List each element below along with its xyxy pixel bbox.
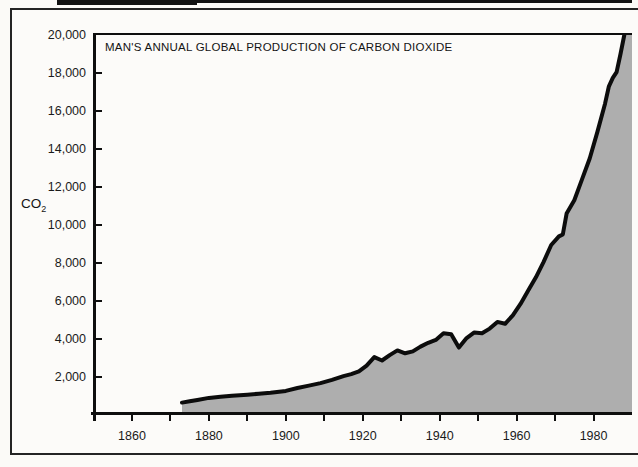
plot-frame-top bbox=[93, 33, 632, 35]
y-tick-label: 18,000 bbox=[0, 65, 86, 81]
plot-area bbox=[93, 33, 632, 414]
x-tick-mark bbox=[439, 415, 441, 421]
y-axis-unit-subscript: 2 bbox=[41, 204, 46, 214]
y-tick-label: 12,000 bbox=[0, 179, 86, 195]
y-tick-mark bbox=[96, 186, 102, 188]
y-tick-mark bbox=[96, 224, 102, 226]
x-tick-label: 1880 bbox=[177, 428, 241, 444]
y-tick-mark bbox=[96, 72, 102, 74]
y-tick-label: 4,000 bbox=[0, 331, 86, 347]
y-tick-label: 8,000 bbox=[0, 255, 86, 271]
y-axis-unit-text: CO bbox=[21, 196, 41, 211]
x-tick-label: 1980 bbox=[562, 428, 626, 444]
y-tick-mark bbox=[96, 376, 102, 378]
y-tick-label: 10,000 bbox=[0, 217, 86, 233]
x-tick-label: 1920 bbox=[331, 428, 395, 444]
x-tick-mark bbox=[323, 415, 325, 421]
x-tick-mark bbox=[131, 415, 133, 421]
x-tick-mark bbox=[477, 415, 479, 421]
y-tick-label: 14,000 bbox=[0, 141, 86, 157]
x-tick-label: 1860 bbox=[100, 428, 164, 444]
page-top-rule-thick-segment bbox=[57, 0, 197, 5]
y-tick-label: 20,000 bbox=[0, 27, 86, 43]
chart-title: MAN'S ANNUAL GLOBAL PRODUCTION OF CARBON… bbox=[105, 41, 453, 53]
y-tick-mark bbox=[96, 148, 102, 150]
x-tick-mark bbox=[362, 415, 364, 421]
y-tick-mark bbox=[96, 300, 102, 302]
y-tick-mark bbox=[96, 338, 102, 340]
x-tick-mark bbox=[400, 415, 402, 421]
x-tick-mark bbox=[593, 415, 595, 421]
x-tick-label: 1940 bbox=[408, 428, 472, 444]
y-tick-label: 16,000 bbox=[0, 103, 86, 119]
x-tick-mark bbox=[169, 415, 171, 421]
x-tick-mark bbox=[285, 415, 287, 421]
y-tick-label: 2,000 bbox=[0, 369, 86, 385]
x-tick-label: 1960 bbox=[485, 428, 549, 444]
x-tick-mark bbox=[554, 415, 556, 421]
y-tick-mark bbox=[96, 262, 102, 264]
y-tick-label: 6,000 bbox=[0, 293, 86, 309]
x-tick-mark bbox=[516, 415, 518, 421]
y-axis-line bbox=[93, 33, 96, 421]
x-tick-label: 1900 bbox=[254, 428, 318, 444]
co2-area-chart bbox=[93, 33, 632, 414]
y-axis-unit-label: CO2 bbox=[21, 196, 46, 214]
x-tick-mark bbox=[246, 415, 248, 421]
x-tick-mark bbox=[208, 415, 210, 421]
y-tick-mark bbox=[96, 110, 102, 112]
